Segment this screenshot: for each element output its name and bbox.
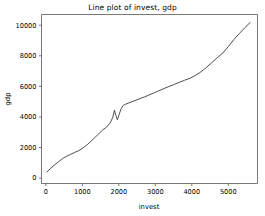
x-tick-label: 1000 xyxy=(74,188,91,196)
y-axis-label: gdp xyxy=(4,93,12,106)
y-axis-ticks: 0200040006000800010000 xyxy=(16,22,42,183)
x-axis-label: invest xyxy=(139,203,160,211)
line-plot: 010002000300040005000 020004000600080001… xyxy=(0,0,265,216)
x-tick-label: 5000 xyxy=(220,188,237,196)
y-tick-label: 8000 xyxy=(20,52,37,60)
chart-figure: Line plot of invest, gdp 010002000300040… xyxy=(0,0,265,216)
x-tick-label: 3000 xyxy=(147,188,164,196)
axes-box xyxy=(42,15,258,184)
y-tick-label: 6000 xyxy=(20,83,37,91)
x-tick-label: 0 xyxy=(44,188,48,196)
x-tick-label: 4000 xyxy=(183,188,200,196)
y-tick-label: 4000 xyxy=(20,113,37,121)
y-tick-label: 2000 xyxy=(20,144,37,152)
x-tick-label: 2000 xyxy=(110,188,127,196)
x-axis-ticks: 010002000300040005000 xyxy=(44,184,237,196)
data-series-gdp xyxy=(47,22,250,172)
axes-spines xyxy=(42,15,258,184)
y-tick-label: 0 xyxy=(32,174,36,182)
y-tick-label: 10000 xyxy=(16,22,37,30)
